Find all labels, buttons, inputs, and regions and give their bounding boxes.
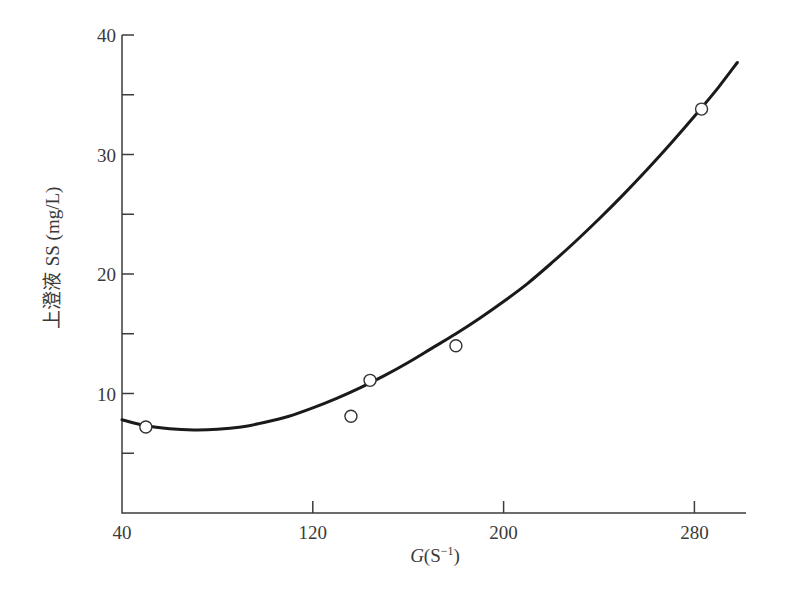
y-tick-label: 40: [97, 25, 116, 46]
data-point-marker: [364, 374, 376, 386]
y-axis-label-unit: SS (mg/L): [42, 187, 63, 267]
axis-frame: [122, 35, 746, 513]
tick-labels: 1020304040120200280: [97, 25, 709, 543]
data-points: [140, 103, 708, 433]
x-tick-label: 280: [680, 522, 709, 543]
x-axis-unit-exponent: −1: [441, 544, 454, 558]
y-axis-label: 上澄液 SS (mg/L): [37, 187, 64, 330]
y-axis-label-cjk: 上澄液: [41, 266, 63, 329]
axes: [122, 35, 746, 513]
data-point-marker: [696, 103, 708, 115]
fitted-curve: [122, 62, 737, 429]
x-axis-unit-open: (S: [424, 545, 441, 566]
fitted-curve-line: [122, 62, 737, 429]
data-point-marker: [140, 421, 152, 433]
x-tick-label: 40: [113, 522, 132, 543]
y-tick-label: 30: [97, 145, 116, 166]
data-point-marker: [345, 410, 357, 422]
chart-plot: 1020304040120200280: [0, 0, 787, 595]
x-axis-label: G(S−1): [410, 544, 460, 567]
y-tick-label: 20: [97, 264, 116, 285]
axis-ticks: [122, 35, 694, 513]
x-tick-label: 200: [489, 522, 518, 543]
y-tick-label: 10: [97, 384, 116, 405]
x-axis-variable: G: [410, 545, 424, 566]
x-axis-unit-close: ): [454, 545, 460, 566]
x-tick-label: 120: [299, 522, 328, 543]
data-point-marker: [450, 340, 462, 352]
